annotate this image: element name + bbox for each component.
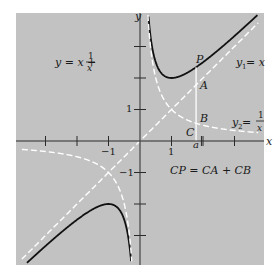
- x-tick-label-1: 1: [168, 146, 174, 157]
- function-plot: x y −1 1 a 1 −1 y = x + 1 x y 1 = x y 2 …: [0, 0, 280, 278]
- y-axis-label: y: [134, 10, 142, 23]
- point-label-C: C: [186, 126, 195, 139]
- svg-text:1: 1: [88, 51, 94, 61]
- svg-text:1: 1: [258, 110, 264, 120]
- x-tick-label-neg1: −1: [101, 146, 116, 157]
- y-tick-label-1: 1: [126, 103, 132, 114]
- y-tick-label-neg1: −1: [119, 167, 134, 178]
- svg-text:= x: = x: [246, 56, 266, 69]
- point-label-B: B: [199, 112, 208, 125]
- x-tick-label-a: a: [193, 139, 199, 150]
- point-label-A: A: [199, 79, 208, 92]
- point-label-P: P: [195, 53, 204, 66]
- relation-label: CP = CA + CB: [170, 164, 251, 177]
- svg-text:x: x: [257, 123, 262, 133]
- svg-text:=: =: [242, 116, 251, 129]
- svg-text:x: x: [87, 63, 92, 73]
- equation-label-y1: y 1 = x: [235, 56, 266, 71]
- x-axis-label: x: [266, 135, 273, 148]
